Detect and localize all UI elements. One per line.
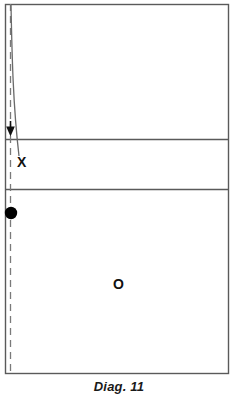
diagram-figure: X O Diag. 11	[0, 0, 238, 396]
figure-caption: Diag. 11	[0, 379, 238, 394]
court-diagram-canvas	[0, 0, 238, 396]
ball-marker-dot	[5, 207, 17, 219]
player-o-marker: O	[113, 277, 124, 291]
player-x-marker: X	[17, 155, 26, 169]
